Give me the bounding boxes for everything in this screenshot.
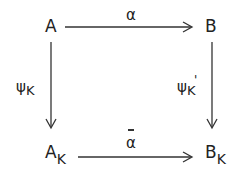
arrow-right-label: ψK' — [177, 80, 195, 95]
psi-symbol: ψ — [16, 78, 26, 96]
node-a-k: AK — [45, 144, 66, 161]
arrow-top-label: α — [126, 8, 136, 23]
node-b: B — [205, 18, 217, 35]
node-b-k-main: B — [205, 142, 217, 162]
node-b-k-sub: K — [217, 151, 226, 167]
prime-mark: ' — [194, 74, 197, 86]
arrow-left-label: ψK — [16, 80, 34, 95]
node-a-k-sub: K — [57, 151, 66, 167]
psi-prime-symbol: ψ — [177, 78, 187, 96]
node-a-label: A — [45, 16, 57, 36]
arrow-bottom-label: α — [126, 136, 136, 151]
psi-sub: K — [26, 83, 35, 98]
node-a-k-main: A — [45, 142, 57, 162]
node-b-label: B — [205, 16, 217, 36]
node-a: A — [45, 18, 57, 35]
node-b-k: BK — [205, 144, 226, 161]
